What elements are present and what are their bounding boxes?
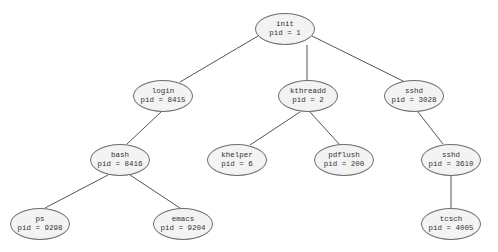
- node-name: init: [276, 20, 294, 29]
- edge-bash-emacs: [130, 175, 180, 208]
- node-pid: pid = 4005: [428, 224, 473, 233]
- node-sshd-3610: sshd pid = 3610: [421, 144, 481, 176]
- tree-edges: [0, 0, 498, 252]
- node-name: login: [152, 87, 175, 96]
- node-pdflush: pdflush pid = 200: [314, 144, 374, 176]
- node-pid: pid = 8415: [140, 96, 185, 105]
- node-kthreadd: kthreadd pid = 2: [278, 80, 338, 112]
- edge-kthreadd-pdflush: [310, 112, 340, 145]
- node-name: pdflush: [328, 151, 360, 160]
- edge-login-bash: [127, 112, 161, 144]
- node-name: kthreadd: [290, 87, 326, 96]
- node-name: ps: [35, 215, 44, 224]
- node-login: login pid = 8415: [133, 80, 193, 112]
- edge-bash-ps: [45, 175, 108, 208]
- node-name: tcsch: [440, 215, 463, 224]
- edge-init-login: [180, 36, 258, 82]
- node-name: emacs: [172, 215, 195, 224]
- node-pid: pid = 9298: [17, 224, 62, 233]
- node-bash: bash pid = 8416: [90, 144, 150, 176]
- node-tcsch: tcsch pid = 4005: [421, 208, 481, 240]
- node-pid: pid = 1: [269, 29, 301, 38]
- node-pid: pid = 2: [292, 96, 324, 105]
- node-name: khelper: [221, 151, 253, 160]
- edge-init-sshd: [312, 36, 405, 82]
- node-pid: pid = 200: [324, 160, 365, 169]
- node-name: sshd: [442, 151, 460, 160]
- node-name: sshd: [405, 87, 423, 96]
- node-name: bash: [111, 151, 129, 160]
- node-emacs: emacs pid = 9204: [153, 208, 213, 240]
- edge-sshd-sshd: [418, 112, 443, 144]
- node-init: init pid = 1: [255, 13, 315, 45]
- node-pid: pid = 6: [221, 160, 253, 169]
- edge-kthreadd-khelper: [250, 112, 300, 145]
- node-ps: ps pid = 9298: [10, 208, 70, 240]
- node-pid: pid = 8416: [97, 160, 142, 169]
- node-pid: pid = 9204: [160, 224, 205, 233]
- node-pid: pid = 3028: [391, 96, 436, 105]
- node-pid: pid = 3610: [428, 160, 473, 169]
- node-sshd-3028: sshd pid = 3028: [384, 80, 444, 112]
- node-khelper: khelper pid = 6: [207, 144, 267, 176]
